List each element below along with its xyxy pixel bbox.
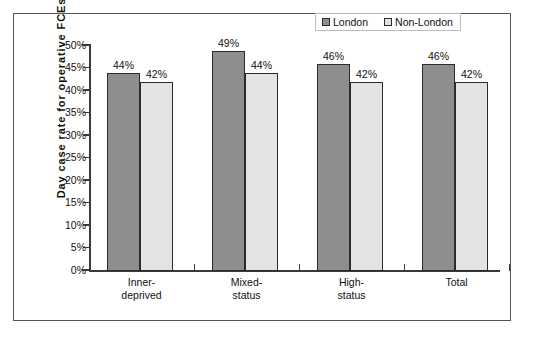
bar-non-london-total [455, 82, 488, 271]
x-axis-category-label: Inner-deprived [87, 276, 197, 301]
bar-london-total [422, 64, 455, 271]
bar-london-high-status [317, 64, 350, 271]
x-axis-category-label-line: High- [297, 276, 407, 289]
bar-value-label: 46% [419, 50, 459, 62]
x-axis-tick-mark [509, 264, 510, 271]
y-axis-tick-label: 45% [48, 62, 86, 73]
x-axis-category-label-line: status [192, 289, 302, 302]
y-axis-tick-label: 0% [48, 265, 86, 276]
x-axis-category-label-line: deprived [87, 289, 197, 302]
y-axis-tick-labels: 0%5%10%15%20%25%30%35%40%45%50% [48, 38, 86, 274]
y-axis-tick-label: 10% [48, 220, 86, 231]
legend-swatch-icon [322, 18, 330, 26]
x-axis-category-label-line: status [297, 289, 407, 302]
x-axis-category-label: Mixed-status [192, 276, 302, 301]
y-axis-tick-label: 20% [48, 175, 86, 186]
chart-legend: LondonNon-London [315, 13, 461, 31]
y-axis-tick-label: 5% [48, 242, 86, 253]
bar-london-inner-deprived [107, 73, 140, 271]
bar-value-label: 42% [347, 68, 387, 80]
bar-value-label: 42% [137, 68, 177, 80]
legend-swatch-icon [384, 18, 392, 26]
bar-value-label: 44% [242, 59, 282, 71]
bar-non-london-high-status [350, 82, 383, 271]
y-axis-tick-label: 25% [48, 152, 86, 163]
x-axis-category-label-line: Total [402, 276, 512, 289]
y-axis-tick-label: 40% [48, 85, 86, 96]
bar-value-label: 42% [452, 68, 492, 80]
x-axis-category-label-line: Mixed- [192, 276, 302, 289]
y-axis-tick-label: 35% [48, 107, 86, 118]
bar-london-mixed-status [212, 51, 245, 272]
y-axis-tick-label: 30% [48, 130, 86, 141]
bar-value-label: 46% [314, 50, 354, 62]
x-axis-category-label: High-status [297, 276, 407, 301]
legend-label: Non-London [395, 16, 453, 28]
chart-figure: Day case rate for operative FCEs 0%5%10%… [0, 0, 536, 339]
legend-entry-non-london: Non-London [384, 16, 453, 28]
x-axis-category-label-line: Inner- [87, 276, 197, 289]
y-axis-tick-label: 15% [48, 197, 86, 208]
bar-value-label: 49% [209, 37, 249, 49]
bar-non-london-inner-deprived [140, 82, 173, 271]
legend-label: London [333, 16, 368, 28]
x-axis-category-label: Total [402, 276, 512, 289]
legend-entry-london: London [322, 16, 368, 28]
y-axis-tick-label: 50% [48, 40, 86, 51]
bar-non-london-mixed-status [245, 73, 278, 271]
